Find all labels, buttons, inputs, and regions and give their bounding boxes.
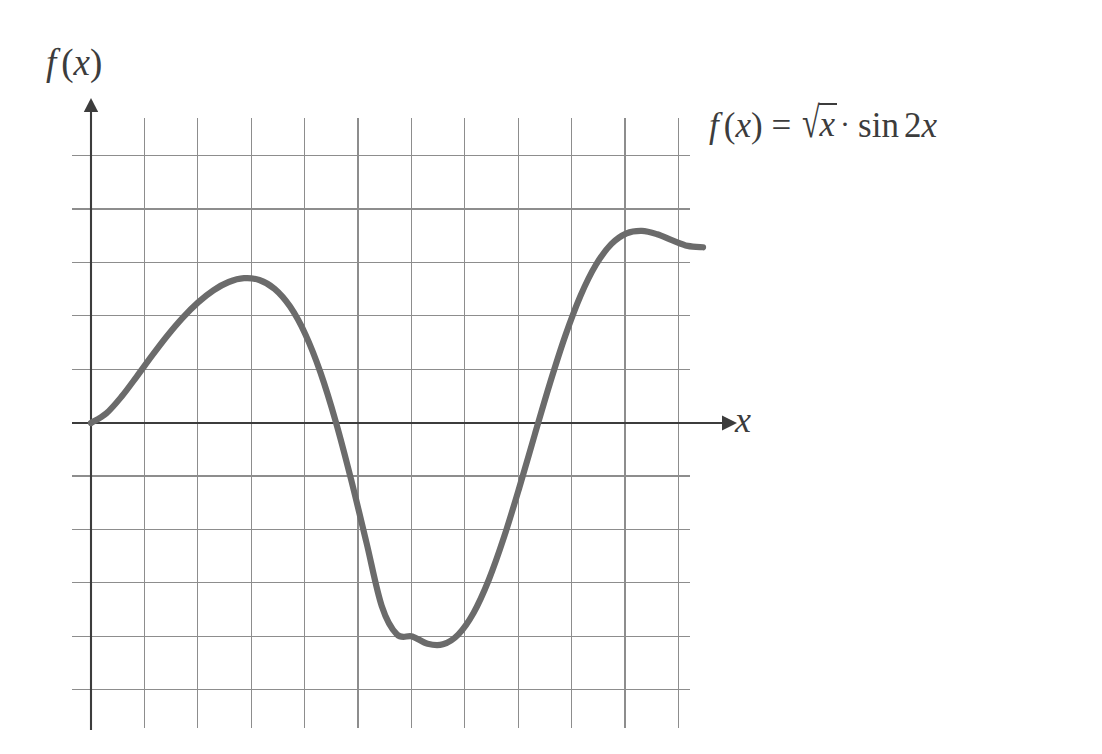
equation-open-paren: (: [724, 106, 736, 145]
y-axis-arrowhead: [84, 98, 98, 112]
equation-var: x: [735, 106, 751, 145]
equation-coefficient: 2: [904, 106, 922, 145]
radical-sign: √: [802, 100, 820, 144]
y-axis-label-open-paren: (: [61, 42, 73, 83]
equation-sin: sin: [858, 106, 899, 145]
x-axis-label: x: [735, 402, 751, 438]
y-axis-label-fn: f: [46, 42, 56, 83]
equation-arg: x: [921, 106, 937, 145]
y-axis-label-var: x: [74, 42, 90, 83]
equation-fn: f: [709, 106, 719, 145]
y-axis-label-close-paren: ): [90, 42, 102, 83]
equation-equals: =: [772, 106, 792, 145]
y-axis-label: f(x): [46, 44, 102, 81]
equation-close-paren: ): [751, 106, 763, 145]
equation-annotation: f(x)=√x·sin2x: [709, 104, 937, 143]
equation-cdot: ·: [837, 109, 853, 139]
radicand: x: [819, 103, 838, 142]
figure-canvas: f(x) x f(x)=√x·sin2x: [0, 0, 1102, 754]
equation-sqrt: √x: [800, 104, 837, 143]
